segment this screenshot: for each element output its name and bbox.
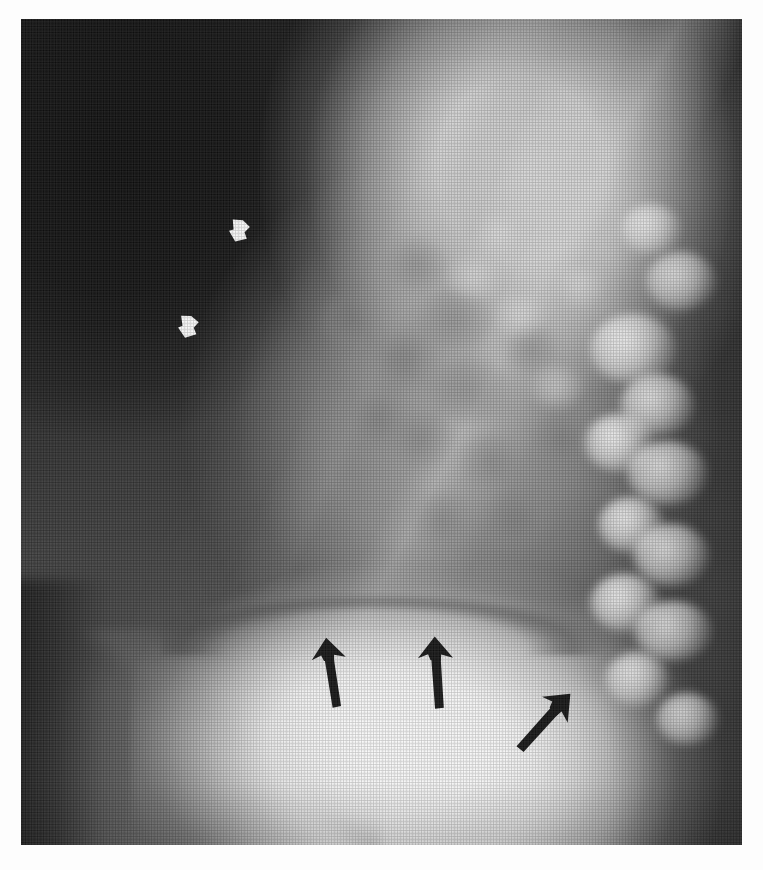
chest-radiograph-image [21,19,742,845]
scan-vignette [21,19,742,845]
figure-page [0,0,763,870]
